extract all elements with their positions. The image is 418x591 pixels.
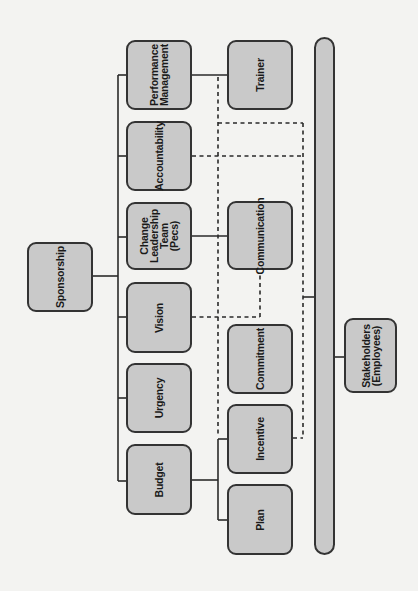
change-leadership-team-label: Change Leadership Team (Pecs) [139, 209, 179, 263]
incentive-label: Incentive [255, 417, 265, 461]
vision-box: Vision [126, 282, 192, 353]
trainer-label: Trainer [255, 58, 265, 92]
trainer-box: Trainer [227, 40, 293, 110]
diagram-canvas: Sponsorship Performance Management Accou… [0, 0, 418, 591]
urgency-label: Urgency [154, 378, 164, 419]
vision-label: Vision [154, 302, 164, 332]
sponsorship-box: Sponsorship [27, 242, 93, 312]
urgency-box: Urgency [126, 363, 192, 433]
accountability-box: Accountability [126, 121, 192, 191]
sponsorship-label: Sponsorship [55, 246, 65, 308]
communication-box: Communication [227, 201, 293, 270]
incentive-box: Incentive [227, 404, 293, 474]
commitment-box: Commitment [227, 324, 293, 394]
accountability-label: Accountability [154, 121, 164, 191]
change-leadership-team-box: Change Leadership Team (Pecs) [126, 202, 192, 270]
communication-label: Communication [255, 197, 265, 274]
plan-label: Plan [255, 509, 265, 530]
commitment-label: Commitment [255, 328, 265, 390]
performance-management-label: Performance Management [149, 44, 169, 106]
performance-management-box: Performance Management [126, 40, 192, 110]
stakeholders-bar [314, 37, 335, 555]
budget-box: Budget [126, 444, 192, 515]
plan-box: Plan [227, 484, 293, 555]
stakeholders-label: Stakeholders (Employees) [361, 324, 381, 388]
budget-label: Budget [154, 462, 164, 497]
stakeholders-box: Stakeholders (Employees) [344, 318, 397, 393]
